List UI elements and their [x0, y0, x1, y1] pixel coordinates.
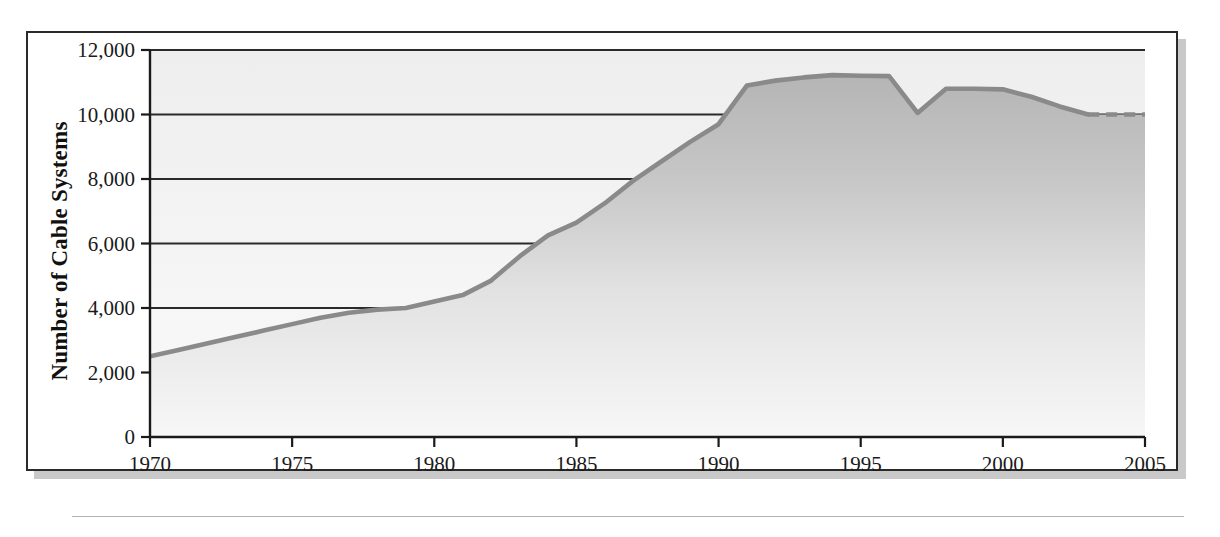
figure-container: Number of Cable Systems — [26, 31, 1178, 471]
y-tick-label: 12,000 — [77, 38, 135, 62]
y-tick-label: 6,000 — [88, 232, 135, 256]
x-tick-label: 1975 — [271, 452, 313, 471]
x-tick-label: 1970 — [129, 452, 171, 471]
x-tick-label: 2005 — [1124, 452, 1166, 471]
x-tick-label: 1980 — [413, 452, 455, 471]
y-tick-label: 2,000 — [88, 361, 135, 385]
x-axis-ticks: 19701975198019851990199520002005 — [129, 437, 1166, 471]
cable-systems-area-chart: 02,0004,0006,0008,00010,00012,000 197019… — [26, 31, 1178, 471]
x-tick-label: 1995 — [840, 452, 882, 471]
y-tick-label: 8,000 — [88, 167, 135, 191]
x-tick-label: 1990 — [698, 452, 740, 471]
y-tick-label: 10,000 — [77, 103, 135, 127]
x-tick-label: 2000 — [982, 452, 1024, 471]
y-axis-ticks: 02,0004,0006,0008,00010,00012,000 — [77, 38, 150, 449]
y-tick-label: 0 — [125, 425, 136, 449]
page-divider-rule — [72, 516, 1184, 517]
x-tick-label: 1985 — [555, 452, 597, 471]
y-tick-label: 4,000 — [88, 296, 135, 320]
